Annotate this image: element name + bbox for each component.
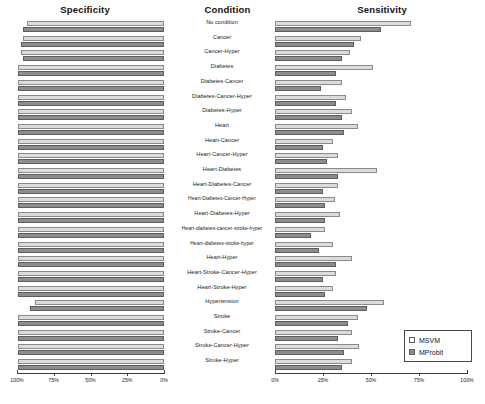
- bar-row: [17, 241, 164, 256]
- condition-label: Diabetes: [168, 64, 276, 70]
- specificity-axis: 100%75%50%25%0%: [17, 373, 164, 389]
- bar-mprobit: [275, 365, 342, 370]
- axis-tick-label: 25%: [122, 377, 132, 383]
- axis-tick-label: 75%: [49, 377, 59, 383]
- condition-label: Heart-diabetes-cancer-stroke-hyper: [168, 226, 276, 231]
- bar-row: [17, 94, 164, 109]
- bar-msvm: [18, 109, 164, 114]
- legend-item: MProbit: [409, 346, 467, 358]
- axis-tick-label: 100%: [10, 377, 23, 383]
- bar-msvm: [275, 242, 333, 247]
- condition-row: Diabetes: [168, 64, 276, 79]
- bar-mprobit: [18, 130, 164, 135]
- bar-msvm: [18, 197, 164, 202]
- bar-row: [17, 182, 164, 197]
- bar-mprobit: [275, 248, 319, 253]
- bar-msvm: [18, 286, 164, 291]
- condition-label: Heart-Diabetes-Hyper: [168, 211, 276, 217]
- condition-label: Diabetes-Hyper: [168, 108, 276, 114]
- bar-mprobit: [275, 277, 323, 282]
- condition-row: Heart-Stroke-Hyper: [168, 285, 276, 300]
- bar-row: [17, 152, 164, 167]
- bar-msvm: [275, 109, 352, 114]
- bar-mprobit: [275, 174, 338, 179]
- bar-mprobit: [23, 56, 164, 61]
- condition-row: Heart-Diabetes-Hyper: [168, 211, 276, 226]
- bar-msvm: [27, 21, 164, 26]
- bar-mprobit: [18, 115, 164, 120]
- bar-msvm: [21, 50, 164, 55]
- condition-row: Hypertension: [168, 299, 276, 314]
- bar-msvm: [18, 315, 164, 320]
- axis-tick: [54, 373, 55, 376]
- condition-label: Heart-Diabetes-Cancer-Hyper: [168, 196, 276, 201]
- bar-row: [275, 167, 467, 182]
- bar-msvm: [18, 183, 164, 188]
- axis-tick: [17, 370, 18, 374]
- bar-mprobit: [18, 233, 164, 238]
- bar-msvm: [275, 212, 340, 217]
- bar-msvm: [18, 330, 164, 335]
- bar-msvm: [275, 300, 384, 305]
- condition-row: Cancer-Hyper: [168, 49, 276, 64]
- bar-mprobit: [18, 159, 164, 164]
- bar-msvm: [18, 168, 164, 173]
- panel-title-condition: Condition: [175, 4, 280, 15]
- bar-msvm: [18, 139, 164, 144]
- condition-label: Stroke-Hyper: [168, 358, 276, 364]
- condition-row: Heart: [168, 123, 276, 138]
- condition-row: Heart-Hyper: [168, 255, 276, 270]
- bar-row: [17, 299, 164, 314]
- condition-row: Heart-Cancer: [168, 138, 276, 153]
- bar-mprobit: [18, 86, 164, 91]
- bar-mprobit: [275, 86, 321, 91]
- bar-mprobit: [18, 218, 164, 223]
- condition-row: Stroke-Cancer: [168, 329, 276, 344]
- specificity-plot-area: [17, 20, 164, 373]
- bar-msvm: [275, 359, 352, 364]
- bar-row: [275, 182, 467, 197]
- bar-msvm: [18, 271, 164, 276]
- bar-mprobit: [18, 101, 164, 106]
- bar-msvm: [23, 36, 164, 41]
- bar-mprobit: [18, 321, 164, 326]
- bar-row: [17, 358, 164, 373]
- bar-msvm: [18, 242, 164, 247]
- bar-mprobit: [21, 42, 164, 47]
- bar-msvm: [18, 227, 164, 232]
- bar-mprobit: [275, 350, 344, 355]
- bar-row: [275, 94, 467, 109]
- condition-label: Diabetes-Cancer-Hyper: [168, 94, 276, 100]
- bar-mprobit: [275, 130, 344, 135]
- condition-label: Heart-Stroke-Hyper: [168, 285, 276, 291]
- bar-mprobit: [275, 189, 323, 194]
- axis-tick-label: 0%: [271, 377, 279, 383]
- axis-tick-label: 25%: [318, 377, 328, 383]
- bar-row: [275, 314, 467, 329]
- condition-label: Stroke: [168, 314, 276, 320]
- bar-row: [275, 285, 467, 300]
- bar-row: [275, 196, 467, 211]
- bar-mprobit: [275, 218, 325, 223]
- condition-label: Cancer: [168, 35, 276, 41]
- bar-msvm: [18, 212, 164, 217]
- axis-tick-label: 50%: [85, 377, 95, 383]
- bar-row: [17, 108, 164, 123]
- legend-swatch-msvm: [409, 337, 415, 343]
- bar-msvm: [18, 344, 164, 349]
- bar-row: [17, 35, 164, 50]
- bar-msvm: [18, 65, 164, 70]
- condition-row: Heart-Diabetes-Cancer-Hyper: [168, 196, 276, 211]
- bar-mprobit: [18, 336, 164, 341]
- bar-mprobit: [275, 56, 342, 61]
- panel-title-specificity: Specificity: [0, 4, 170, 15]
- bar-msvm: [275, 315, 358, 320]
- axis-tick: [164, 370, 165, 374]
- bar-mprobit: [275, 71, 336, 76]
- bar-mprobit: [275, 27, 381, 32]
- condition-row: Heart-Stroke-Cancer-Hyper: [168, 270, 276, 285]
- bar-msvm: [35, 300, 164, 305]
- condition-label: Heart-Stroke-Cancer-Hyper: [168, 270, 276, 276]
- bar-mprobit: [275, 306, 367, 311]
- axis-tick: [127, 373, 128, 376]
